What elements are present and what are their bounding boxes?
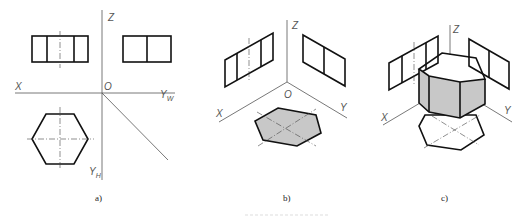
panel-a-orthographic-views: Z X O YW YH a) xyxy=(14,10,175,203)
axis-label-x: X xyxy=(215,108,223,119)
axis-label-x: X xyxy=(380,112,388,123)
figure-canvas: Z X O YW YH a) Z X O Y xyxy=(0,0,523,220)
axis-label-y: Y xyxy=(340,102,348,113)
panel-b-projection-planes: Z X O Y b) xyxy=(215,20,348,203)
hexagonal-prism-solid xyxy=(419,53,485,118)
axis-label-yh: YH xyxy=(89,166,102,179)
axis-label-z: Z xyxy=(291,20,299,31)
axis-label-yw: YW xyxy=(160,89,175,102)
axis-label-x: X xyxy=(14,81,22,92)
axis-label-z: Z xyxy=(107,12,115,23)
top-view-hexagon xyxy=(27,107,94,170)
caption-c: c) xyxy=(441,193,448,203)
caption-b: b) xyxy=(283,193,291,203)
front-view xyxy=(32,31,88,68)
front-view-plane xyxy=(225,33,273,87)
axis-label-origin: O xyxy=(284,89,292,100)
bottom-hexagon-projection xyxy=(419,115,484,150)
side-view xyxy=(123,36,171,62)
axis-label-z: Z xyxy=(452,24,460,35)
top-view-hexagon-shaded xyxy=(255,108,321,146)
panel-c-hexagonal-prism: Z X Y c) xyxy=(380,24,512,203)
miter-line xyxy=(102,93,168,160)
caption-a: a) xyxy=(95,193,102,203)
three-view-projection-figure: Z X O YW YH a) Z X O Y xyxy=(0,0,523,220)
axis-label-origin: O xyxy=(104,81,112,92)
axis-label-y: Y xyxy=(504,105,512,116)
x-axis xyxy=(383,103,420,125)
side-view-plane xyxy=(303,35,345,86)
